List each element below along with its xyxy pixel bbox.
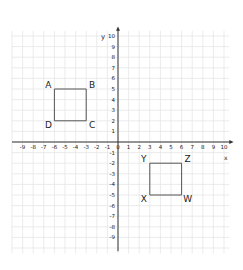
x-tick-label: 10 [221, 144, 228, 150]
vertex-label-b: B [89, 80, 95, 90]
x-tick-label: -3 [83, 144, 89, 150]
vertex-label-a: A [45, 80, 52, 90]
x-tick-label: 4 [159, 144, 163, 150]
coordinate-grid-diagram: -9-8-7-6-5-4-3-2-10123456789101234567891… [0, 0, 243, 270]
y-tick-label: 8 [112, 54, 116, 60]
y-tick-label: 3 [112, 107, 116, 113]
y-tick-label: 1 [112, 128, 116, 134]
vertex-label-d: D [45, 120, 52, 130]
x-tick-label: -4 [73, 144, 79, 150]
y-tick-label: -5 [110, 192, 116, 198]
y-tick-label: 7 [112, 65, 116, 71]
vertex-label-z: Z [185, 154, 191, 164]
x-tick-label: 8 [201, 144, 205, 150]
x-tick-label: 7 [190, 144, 194, 150]
x-tick-label: 5 [169, 144, 173, 150]
y-axis-label: y [101, 33, 105, 41]
y-tick-label: -7 [110, 213, 116, 219]
vertex-label-y: Y [140, 154, 147, 164]
coordinate-plane: -9-8-7-6-5-4-3-2-10123456789101234567891… [0, 0, 243, 270]
x-tick-label: 3 [148, 144, 152, 150]
x-axis-label: x [224, 154, 228, 161]
y-tick-label: 4 [112, 97, 116, 103]
x-tick-label: -2 [94, 144, 99, 150]
x-tick-label: -8 [30, 144, 36, 150]
x-tick-label: -9 [20, 144, 26, 150]
vertex-label-c: C [89, 120, 95, 130]
x-tick-label: 9 [212, 144, 216, 150]
y-tick-label: 5 [112, 86, 116, 92]
x-tick-label: -7 [41, 144, 47, 150]
y-tick-label: 10 [108, 33, 115, 39]
y-tick-label: -9 [110, 234, 116, 240]
square-abcd [54, 89, 86, 121]
y-tick-label: 6 [112, 75, 116, 81]
vertex-label-w: W [183, 194, 192, 204]
x-tick-label: 2 [137, 144, 141, 150]
y-tick-label: -2 [110, 160, 115, 166]
x-tick-label: -6 [52, 144, 58, 150]
axes [12, 26, 234, 251]
x-tick-label: 6 [180, 144, 184, 150]
y-tick-label: -4 [110, 181, 116, 187]
x-axis-arrow-icon [229, 140, 233, 144]
x-tick-label: 1 [127, 144, 131, 150]
tick-labels: -9-8-7-6-5-4-3-2-10123456789101234567891… [20, 33, 228, 240]
y-tick-label: 9 [112, 44, 116, 50]
y-tick-label: -3 [110, 171, 116, 177]
x-tick-label: 0 [116, 144, 120, 150]
x-tick-label: -5 [62, 144, 68, 150]
y-tick-label: -6 [110, 203, 116, 209]
y-tick-label: -8 [110, 224, 116, 230]
vertex-label-x: X [141, 194, 147, 204]
y-tick-label: 2 [112, 118, 116, 124]
square-yzwx [150, 163, 182, 195]
y-axis-arrow-icon [116, 26, 120, 30]
y-tick-label: -1 [110, 150, 115, 156]
